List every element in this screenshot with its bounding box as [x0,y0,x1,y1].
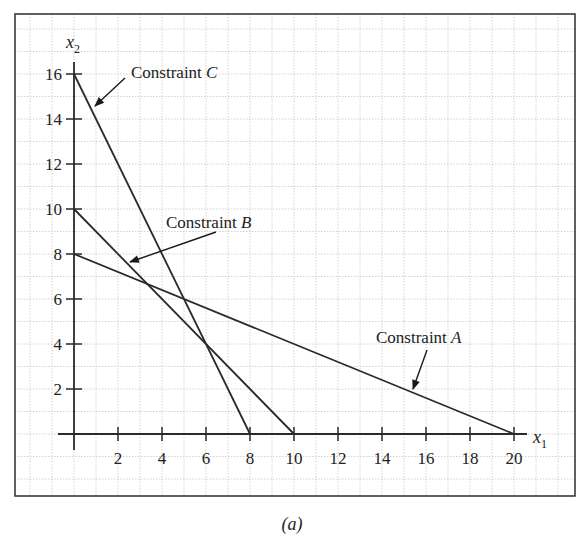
annotation-c-label: Constraint C [131,63,218,82]
y-tick-label: 16 [45,65,62,84]
y-tick-labels: 246810121416 [45,65,63,399]
y-tick-label: 14 [45,110,63,129]
figure: 2468101214161820 246810121416 x1 x2 Cons… [0,0,576,545]
y-tick-label: 12 [45,155,62,174]
annotation-constraint-b: Constraint B [130,213,252,262]
y-tick-label: 4 [54,335,63,354]
x-tick-label: 6 [202,449,211,468]
x-axis-label: x1 [532,427,547,451]
x-tick-labels: 2468101214161820 [114,449,523,468]
arrow-b [130,232,216,262]
x-tick-label: 20 [506,449,523,468]
arrow-c [95,78,125,106]
y-tick-label: 8 [54,245,63,264]
y-tick-label: 2 [54,380,63,399]
x-tick-label: 10 [286,449,303,468]
x-tick-label: 4 [158,449,167,468]
annotation-a-label: Constraint A [376,328,462,347]
axes [58,62,527,450]
annotation-b-label: Constraint B [166,213,252,232]
annotation-constraint-a: Constraint A [376,328,462,389]
x-tick-label: 16 [418,449,435,468]
y-axis-label: x2 [65,32,80,56]
x-tick-label: 2 [114,449,123,468]
y-tick-label: 10 [45,200,62,219]
figure-caption: (a) [282,514,303,535]
chart-canvas: 2468101214161820 246810121416 x1 x2 Cons… [0,0,576,545]
x-tick-label: 18 [462,449,479,468]
x-tick-label: 12 [330,449,347,468]
arrow-a [413,350,427,389]
annotation-constraint-c: Constraint C [95,63,218,106]
x-tick-label: 14 [374,449,392,468]
y-tick-label: 6 [54,290,63,309]
x-tick-label: 8 [246,449,255,468]
